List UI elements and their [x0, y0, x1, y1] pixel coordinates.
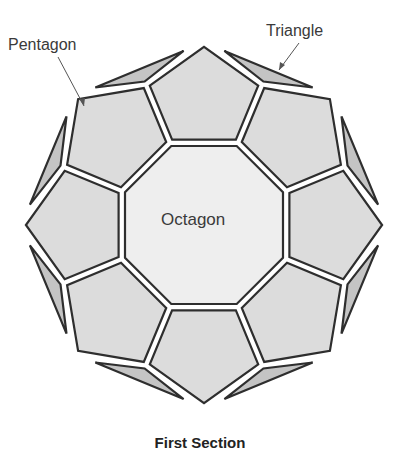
- pentagon-label: Pentagon: [8, 36, 77, 54]
- octagon-label: Octagon: [161, 210, 225, 230]
- triangle-label: Triangle: [266, 22, 323, 40]
- figure-caption: First Section: [0, 434, 400, 451]
- pentagon-leader-line: [58, 57, 84, 106]
